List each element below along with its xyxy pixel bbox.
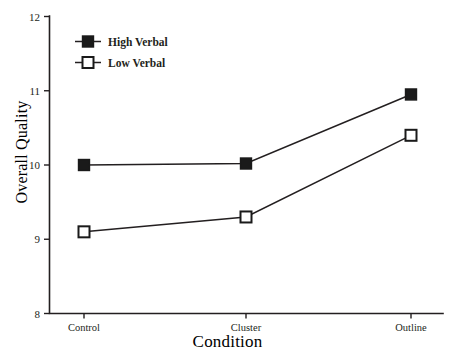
data-point-marker <box>406 89 417 100</box>
legend-marker-open-square <box>83 57 94 68</box>
data-point-marker <box>79 226 90 237</box>
y-axis-ticks <box>44 17 50 314</box>
x-axis-title: Condition <box>0 332 455 352</box>
series-line <box>84 94 411 165</box>
y-tick-label-12: 12 <box>29 11 40 23</box>
legend-label-high-verbal: High Verbal <box>108 36 168 49</box>
series-layer <box>79 89 417 237</box>
data-point-marker <box>241 158 252 169</box>
data-point-marker <box>79 160 90 171</box>
chart-legend: High Verbal Low Verbal <box>75 36 168 69</box>
data-point-marker <box>241 211 252 222</box>
series-low-verbal <box>79 130 417 238</box>
legend-entry-high-verbal: High Verbal <box>75 36 168 49</box>
chart-figure: 12 11 10 9 8 Control Cluster Outline Hig… <box>0 0 455 361</box>
legend-entry-low-verbal: Low Verbal <box>75 57 165 69</box>
legend-marker-filled-square <box>83 36 94 47</box>
data-point-marker <box>406 130 417 141</box>
y-tick-label-8: 8 <box>35 308 41 320</box>
line-chart-plot: 12 11 10 9 8 Control Cluster Outline Hig… <box>0 0 455 361</box>
y-tick-label-9: 9 <box>35 233 41 245</box>
y-axis-title: Overall Quality <box>13 72 31 232</box>
legend-label-low-verbal: Low Verbal <box>108 57 165 69</box>
